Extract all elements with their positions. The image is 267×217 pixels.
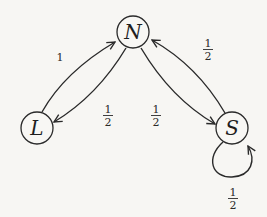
edge-label-L-to-N: 1 xyxy=(57,51,64,64)
edge-label-S-to-N: 1 2 xyxy=(203,37,213,63)
edge-S-self-loop xyxy=(213,142,252,177)
svg-text:1: 1 xyxy=(105,103,112,116)
node-N: N xyxy=(117,16,149,48)
svg-text:1: 1 xyxy=(205,37,212,50)
edge-L-to-N xyxy=(42,42,115,112)
svg-text:2: 2 xyxy=(153,116,160,129)
svg-text:1: 1 xyxy=(57,51,64,64)
svg-text:2: 2 xyxy=(205,50,212,63)
node-L-label: L xyxy=(29,116,43,140)
node-L: L xyxy=(21,112,53,144)
edge-label-N-to-L: 1 2 xyxy=(103,103,113,129)
node-N-label: N xyxy=(123,20,143,44)
svg-text:1: 1 xyxy=(153,103,160,116)
svg-text:2: 2 xyxy=(105,116,112,129)
edge-S-to-N xyxy=(152,40,225,113)
markov-chain-diagram: N L S 1 1 2 1 2 1 2 1 2 xyxy=(0,0,267,217)
svg-text:1: 1 xyxy=(230,186,237,199)
node-S: S xyxy=(216,112,248,144)
node-S-label: S xyxy=(225,116,239,140)
edge-label-S-self-loop: 1 2 xyxy=(228,186,238,212)
edge-label-N-to-S: 1 2 xyxy=(151,103,161,129)
svg-text:2: 2 xyxy=(230,199,237,212)
